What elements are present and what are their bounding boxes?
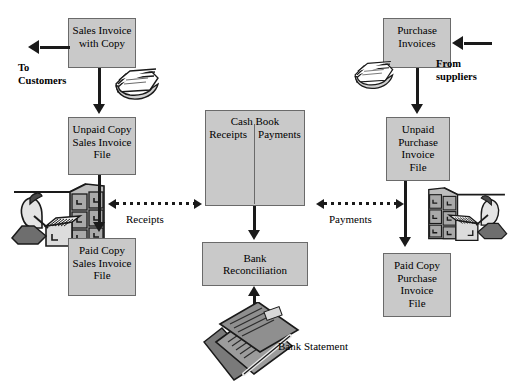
arrowhead-from-suppliers bbox=[452, 36, 463, 50]
box-paid-purchase-line3: Invoice bbox=[401, 284, 434, 297]
box-unpaid-purchase-invoice-file: Unpaid Purchase Invoice File bbox=[386, 117, 450, 181]
line-to-customers bbox=[40, 46, 70, 49]
arrowhead-statement-to-reconciliation bbox=[248, 286, 260, 296]
label-from-suppliers: From suppliers bbox=[436, 58, 506, 83]
box-paid-sales-line2: Sales Invoice bbox=[73, 257, 132, 270]
line-from-suppliers bbox=[464, 42, 492, 45]
box-cash-book: Cash Book Receipts Payments bbox=[205, 110, 305, 206]
cash-book-title: Cash Book bbox=[231, 115, 280, 128]
box-unpaid-sales-line2: Sales Invoice bbox=[73, 136, 132, 149]
box-paid-sales-line1: Paid Copy bbox=[79, 244, 125, 257]
box-unpaid-sales-line3: File bbox=[93, 148, 110, 161]
box-unpaid-purchase-line1: Unpaid bbox=[402, 123, 434, 136]
arrowhead-payments-left bbox=[316, 199, 324, 209]
box-unpaid-copy-sales-invoice-file: Unpaid Copy Sales Invoice File bbox=[68, 117, 136, 175]
box-purchase-invoices-line1: Purchase bbox=[397, 24, 437, 37]
arrowhead-unpaid-to-paid-sales bbox=[93, 222, 105, 232]
box-unpaid-purchase-line2: Purchase bbox=[398, 136, 438, 149]
box-paid-sales-line3: File bbox=[93, 269, 110, 282]
cash-book-col-payments: Payments bbox=[253, 128, 301, 141]
paper-stack-icon-purchase bbox=[348, 55, 398, 93]
label-payments-flow: Payments bbox=[329, 213, 372, 226]
box-paid-copy-sales-invoice-file: Paid Copy Sales Invoice File bbox=[68, 238, 136, 296]
box-unpaid-purchase-line4: File bbox=[409, 161, 426, 174]
line-cashbook-to-reconciliation bbox=[253, 206, 256, 232]
box-paid-copy-purchase-invoice-file: Paid Copy Purchase Invoice File bbox=[383, 253, 451, 317]
arrowhead-receipts-right bbox=[194, 199, 202, 209]
box-sales-invoice-line2: with Copy bbox=[79, 37, 125, 50]
box-sales-invoice-line1: Sales Invoice bbox=[73, 24, 132, 37]
box-unpaid-purchase-line3: Invoice bbox=[402, 148, 435, 161]
line-sales-to-unpaid bbox=[98, 68, 101, 106]
box-paid-purchase-line2: Purchase bbox=[397, 272, 437, 285]
label-bank-statement: Bank Statement bbox=[278, 340, 348, 353]
label-receipts-flow: Receipts bbox=[126, 213, 164, 226]
box-bank-reconciliation: Bank Reconciliation bbox=[202, 242, 308, 286]
cash-book-divider bbox=[254, 124, 255, 204]
arrowhead-cashbook-to-reconciliation bbox=[248, 230, 260, 240]
clerk-filing-cabinet-icon-purchase bbox=[422, 180, 510, 250]
box-paid-purchase-line4: File bbox=[408, 297, 425, 310]
bank-reconciliation-line2: Reconciliation bbox=[223, 264, 287, 277]
box-sales-invoice-with-copy: Sales Invoice with Copy bbox=[68, 18, 136, 68]
line-unpaid-to-paid-sales bbox=[98, 175, 101, 225]
bank-reconciliation-line1: Bank bbox=[243, 252, 266, 265]
label-to-customers: To Customers bbox=[18, 62, 82, 87]
box-purchase-invoices-line2: Invoices bbox=[398, 37, 435, 50]
arrowhead-receipts-left bbox=[108, 199, 116, 209]
cash-book-col-receipts: Receipts bbox=[209, 128, 252, 141]
line-receipts-dotted bbox=[116, 202, 194, 205]
arrowhead-to-customers bbox=[28, 40, 39, 54]
flowchart-canvas: Sales Invoice with Copy To Customers bbox=[0, 0, 510, 390]
arrowhead-sales-to-unpaid bbox=[93, 104, 105, 114]
arrowhead-unpaid-to-paid-purchase bbox=[399, 237, 411, 247]
paper-stack-icon-sales bbox=[108, 62, 164, 104]
line-unpaid-to-paid-purchase bbox=[404, 181, 407, 240]
box-paid-purchase-line1: Paid Copy bbox=[394, 259, 440, 272]
arrowhead-payments-right bbox=[396, 199, 404, 209]
arrowhead-purchase-to-unpaid bbox=[411, 104, 423, 114]
line-purchase-to-unpaid bbox=[416, 68, 419, 106]
box-unpaid-sales-line1: Unpaid Copy bbox=[73, 123, 132, 136]
line-payments-dotted bbox=[324, 202, 396, 205]
